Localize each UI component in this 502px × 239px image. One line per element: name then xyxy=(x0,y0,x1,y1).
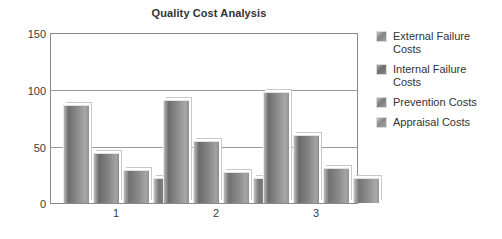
y-axis-tick-100: 100 xyxy=(6,86,46,97)
legend-label-prevention-costs: Prevention Costs xyxy=(393,96,477,109)
legend-label-appraisal-costs: Appraisal Costs xyxy=(393,116,470,129)
bar-group1-internal-failure-costs xyxy=(93,153,119,203)
legend-label-external-failure-costs: External Failure Costs xyxy=(393,30,497,56)
legend-item-prevention-costs: Prevention Costs xyxy=(376,96,500,109)
bar-group2-internal-failure-costs xyxy=(193,141,219,203)
bar-group3-prevention-costs xyxy=(323,168,349,203)
y-axis-tick-50: 50 xyxy=(6,143,46,154)
chart-legend: External Failure Costs Internal Failure … xyxy=(376,30,500,136)
quality-cost-analysis-chart: Quality Cost Analysis 150 100 50 0 1 2 3… xyxy=(0,0,502,239)
legend-item-appraisal-costs: Appraisal Costs xyxy=(376,116,500,129)
series-3-swatch-icon xyxy=(376,117,387,128)
series-1-swatch-icon xyxy=(376,64,387,75)
bar-group3-external-failure-costs xyxy=(263,92,289,203)
bar-group3-internal-failure-costs xyxy=(293,135,319,203)
chart-title: Quality Cost Analysis xyxy=(0,7,418,19)
legend-label-internal-failure-costs: Internal Failure Costs xyxy=(393,63,497,89)
bar-group1-prevention-costs xyxy=(123,170,149,203)
plot-area xyxy=(50,33,358,204)
bar-group1-external-failure-costs xyxy=(63,105,89,203)
legend-item-internal-failure-costs: Internal Failure Costs xyxy=(376,63,500,89)
bar-group3-appraisal-costs xyxy=(353,178,379,203)
bar-group2-external-failure-costs xyxy=(163,100,189,203)
series-0-swatch-icon xyxy=(376,31,387,42)
x-axis-tick-2: 2 xyxy=(196,208,236,219)
y-axis-tick-150: 150 xyxy=(6,29,46,40)
gridline-100 xyxy=(51,90,357,91)
legend-item-external-failure-costs: External Failure Costs xyxy=(376,30,500,56)
x-axis-tick-3: 3 xyxy=(296,208,336,219)
y-axis-tick-0: 0 xyxy=(6,199,46,210)
x-axis-tick-1: 1 xyxy=(96,208,136,219)
series-2-swatch-icon xyxy=(376,97,387,108)
bar-group2-prevention-costs xyxy=(223,172,249,203)
